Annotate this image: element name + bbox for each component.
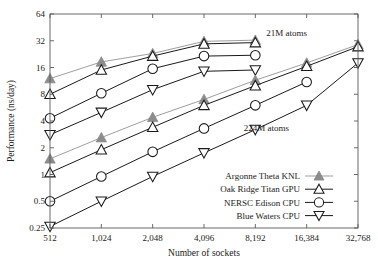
y-axis-title: Performance (ns/day) xyxy=(6,80,17,162)
marker-open-triangle-down xyxy=(199,149,209,158)
marker-open-triangle-down xyxy=(147,85,157,94)
x-tick-label: 1,024 xyxy=(91,233,112,243)
y-tick-label: 16 xyxy=(36,63,46,73)
chart-canvas: 0.250.512481632645121,0242,0484,0968,192… xyxy=(0,0,378,269)
marker-open-triangle-down xyxy=(147,172,157,181)
marker-open-triangle-down xyxy=(96,197,106,206)
chart-legend[interactable]: Argonne Theta KNLOak Ridge Titan GPUNERS… xyxy=(220,171,333,221)
y-tick-label: 0.5 xyxy=(34,196,46,206)
x-tick-label: 8,192 xyxy=(245,233,265,243)
y-tick-label: 1 xyxy=(41,170,46,180)
marker-open-triangle-down xyxy=(301,101,311,110)
marker-filled-triangle-up xyxy=(147,112,157,121)
legend-label: NERSC Edison CPU xyxy=(224,198,301,208)
chart-annotation: 21M atoms xyxy=(266,28,307,38)
y-tick-label: 0.25 xyxy=(29,223,45,233)
x-tick-label: 4,096 xyxy=(194,233,215,243)
marker-open-triangle-down xyxy=(199,67,209,76)
y-tick-label: 4 xyxy=(41,116,46,126)
x-axis-title: Number of sockets xyxy=(168,248,240,258)
y-tick-label: 64 xyxy=(36,9,46,19)
marker-filled-triangle-up xyxy=(96,132,106,141)
chart-annotation: 224M atoms xyxy=(244,123,290,133)
marker-circle xyxy=(199,51,209,61)
x-tick-label: 32,768 xyxy=(346,233,371,243)
marker-open-triangle-up xyxy=(96,145,106,154)
marker-open-triangle-down xyxy=(96,108,106,117)
marker-circle xyxy=(148,147,158,157)
legend-item-2[interactable]: NERSC Edison CPU xyxy=(224,198,333,208)
y-tick-label: 32 xyxy=(36,36,45,46)
marker-circle xyxy=(302,77,312,87)
legend-item-3[interactable]: Blue Waters CPU xyxy=(236,211,333,221)
marker-circle xyxy=(199,124,209,134)
marker-circle xyxy=(97,89,107,99)
x-tick-label: 512 xyxy=(43,233,57,243)
scaling-chart-figure: 0.250.512481632645121,0242,0484,0968,192… xyxy=(0,0,378,269)
marker-filled-triangle-up xyxy=(314,171,324,180)
legend-item-1[interactable]: Oak Ridge Titan GPU xyxy=(220,184,333,194)
marker-circle xyxy=(97,172,107,182)
marker-circle xyxy=(251,101,261,111)
x-tick-label: 16,384 xyxy=(294,233,319,243)
marker-circle xyxy=(314,198,323,207)
legend-item-0[interactable]: Argonne Theta KNL xyxy=(225,171,333,181)
marker-circle xyxy=(251,50,261,60)
marker-open-triangle-up xyxy=(147,122,157,131)
legend-label: Blue Waters CPU xyxy=(236,211,300,221)
y-tick-label: 2 xyxy=(41,143,46,153)
legend-label: Oak Ridge Titan GPU xyxy=(220,184,300,194)
marker-circle xyxy=(148,64,158,74)
y-tick-label: 8 xyxy=(41,89,46,99)
x-tick-label: 2,048 xyxy=(143,233,164,243)
legend-label: Argonne Theta KNL xyxy=(225,171,300,181)
